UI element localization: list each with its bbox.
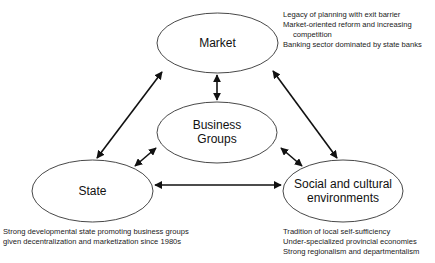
arrow-business-groups-state	[135, 148, 156, 166]
social-note-line: Tradition of local self-sufficiency	[283, 227, 419, 237]
state-note-line: Strong developmental state promoting bus…	[3, 227, 189, 237]
social-note: Tradition of local self-sufficiency Unde…	[283, 227, 419, 257]
social-note-line: Under-specialized provincial economies	[283, 237, 419, 247]
social-label-line1: Social and cultural	[283, 177, 403, 191]
market-note-line: competition	[283, 30, 422, 40]
business-groups-label-line2: Groups	[157, 132, 277, 146]
arrow-business-groups-social	[281, 148, 302, 166]
market-note: Legacy of planning with exit barrier Mar…	[283, 10, 422, 50]
arrow-market-state	[97, 72, 162, 158]
business-groups-label-line1: Business	[157, 118, 277, 132]
market-label-text: Market	[199, 36, 236, 50]
market-note-line: Market-oriented reform and increasing	[283, 20, 422, 30]
state-label-text: State	[78, 184, 106, 198]
state-label: State	[32, 184, 153, 198]
social-label-line2: environments	[283, 191, 403, 205]
arrow-market-social	[273, 71, 337, 158]
market-label: Market	[157, 36, 278, 50]
market-note-line: Legacy of planning with exit barrier	[283, 10, 422, 20]
social-note-line: Strong regionalism and departmentalism	[283, 247, 419, 257]
business-groups-label: Business Groups	[157, 118, 277, 146]
state-note-line: given decentralization and marketization…	[3, 237, 189, 247]
market-note-line: Banking sector dominated by state banks	[283, 40, 422, 50]
social-label: Social and cultural environments	[283, 177, 403, 205]
state-note: Strong developmental state promoting bus…	[3, 227, 189, 247]
